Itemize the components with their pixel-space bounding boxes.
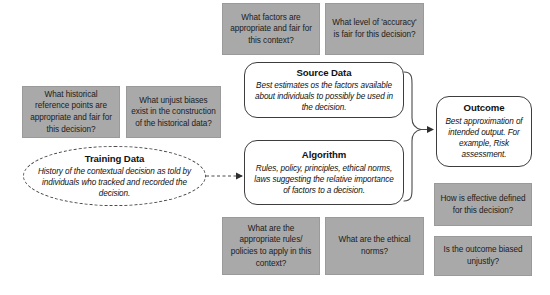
- question-text: Is the outcome biased unjustly?: [439, 244, 527, 267]
- brace-sources-to-outcome: [404, 72, 421, 201]
- node-body: Best approximation of intended output. F…: [443, 116, 525, 161]
- question-box-factors-appropriate-fair: What factors are appropriate and fair fo…: [222, 3, 320, 55]
- arrow-brace-to-outcome: [421, 126, 434, 133]
- node-title: Outcome: [464, 102, 505, 114]
- node-title: Source Data: [297, 67, 352, 79]
- question-text: How is effective defined for this decisi…: [439, 193, 527, 216]
- node-body: Rules, policy, principles, ethical norms…: [251, 163, 397, 196]
- arrow-training-data-to-algorithm: [206, 173, 243, 180]
- question-text: What factors are appropriate and fair fo…: [227, 12, 315, 47]
- question-box-effective-defined: How is effective defined for this decisi…: [434, 183, 532, 226]
- node-body: Best estimates os the factors available …: [251, 80, 397, 113]
- question-text: What historical reference points are app…: [27, 89, 115, 136]
- question-box-ethical-norms: What are the ethical norms?: [325, 217, 424, 275]
- node-title: Algorithm: [302, 149, 346, 161]
- node-outcome: Outcome Best approximation of intended o…: [436, 96, 532, 167]
- question-text: What unjust biases exist in the construc…: [131, 95, 216, 130]
- question-text: What level of 'accuracy' is fair for thi…: [330, 17, 419, 40]
- node-source-data: Source Data Best estimates os the factor…: [244, 62, 404, 118]
- question-box-appropriate-rules-policies: What are the appropriate rules/ policies…: [222, 217, 320, 275]
- question-text: What are the appropriate rules/ policies…: [227, 223, 315, 270]
- question-box-outcome-biased-unjustly: Is the outcome biased unjustly?: [434, 236, 532, 276]
- diagram-canvas: What factors are appropriate and fair fo…: [0, 0, 550, 295]
- question-box-unjust-biases-historical-data: What unjust biases exist in the construc…: [126, 86, 221, 138]
- question-box-historical-reference-points: What historical reference points are app…: [22, 86, 120, 138]
- node-algorithm: Algorithm Rules, policy, principles, eth…: [244, 140, 404, 205]
- node-training-data: Training Data History of the contextual …: [23, 146, 206, 206]
- question-text: What are the ethical norms?: [330, 234, 419, 257]
- question-box-accuracy-level-fair: What level of 'accuracy' is fair for thi…: [325, 3, 424, 55]
- node-title: Training Data: [85, 153, 144, 165]
- node-body: History of the contextual decision as to…: [30, 166, 199, 199]
